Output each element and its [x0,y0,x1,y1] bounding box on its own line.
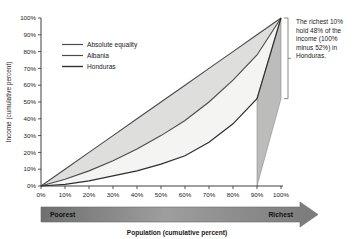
x-tick-label: 30% [107,191,120,198]
y-tick-label: 60% [24,81,37,88]
x-tick-label: 50% [155,191,168,198]
y-tick-label: 50% [24,98,37,105]
population-gradient-arrow: Poorest Richest [41,202,318,227]
y-axis-tick-labels: 0%10%20%30%40%50%60%70%80%90%100% [20,14,36,189]
y-tick-label: 30% [24,132,37,139]
lorenz-curve-chart: 0%10%20%30%40%50%60%70%80%90%100% 0%10%2… [0,0,354,239]
x-tick-label: 100% [273,191,289,198]
annotation-line: Honduras. [296,52,326,59]
y-tick-label: 10% [24,165,37,172]
x-tick-label: 20% [83,191,96,198]
x-tick-label: 70% [203,191,216,198]
x-axis-tick-labels: 0%10%20%30%40%50%60%70%80%90%100% [37,191,290,198]
annotation-bracket [284,18,291,99]
y-tick-label: 80% [24,48,37,55]
x-tick-label: 0% [37,191,46,198]
y-tick-label: 70% [24,65,37,72]
y-axis-title: Income (cumulative percent) [5,62,13,143]
y-tick-label: 40% [24,115,37,122]
annotation-line: income (100% [296,35,338,43]
legend-label-albania: Albania [87,52,109,59]
x-tick-label: 40% [131,191,144,198]
x-tick-label: 80% [227,191,240,198]
y-tick-label: 20% [24,149,37,156]
annotation-line: hold 48% of the [296,27,342,34]
x-tick-label: 90% [251,191,264,198]
x-axis-title: Population (cumulative percent) [127,229,227,237]
annotation-text: The richest 10%hold 48% of theincome (10… [296,18,343,59]
y-tick-label: 0% [27,182,36,189]
arrow-label-richest: Richest [268,211,293,218]
arrow-label-poorest: Poorest [50,211,76,218]
x-tick-label: 60% [179,191,192,198]
legend-label-absolute-equality: Absolute equality [87,41,138,49]
y-tick-label: 90% [24,31,37,38]
annotation-line: minus 52%) in [296,44,338,52]
x-tick-label: 10% [59,191,72,198]
y-tick-label: 100% [20,14,36,21]
annotation-line: The richest 10% [296,18,343,25]
legend-label-honduras: Honduras [87,63,116,70]
